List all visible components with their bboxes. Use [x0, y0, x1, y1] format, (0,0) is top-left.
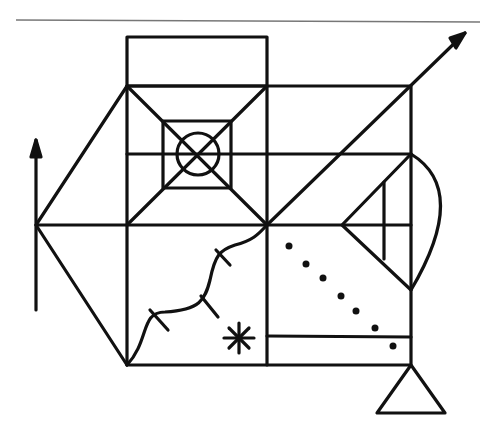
right-semicircle	[411, 154, 441, 290]
diagonal-arrow-shaft	[267, 33, 465, 225]
upper-rectangle	[127, 37, 267, 86]
complex-figure	[0, 0, 497, 424]
lower-bar	[267, 336, 411, 337]
bottom-triangle	[377, 365, 445, 413]
vertical-arrow-head-icon	[31, 140, 41, 157]
wave-tick-2	[201, 296, 218, 317]
asterisk-icon	[224, 323, 254, 353]
top-rule	[16, 20, 480, 22]
small-right-triangle	[342, 154, 411, 290]
